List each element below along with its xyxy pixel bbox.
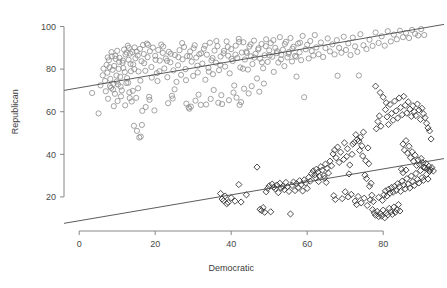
data-point-diamond [379,197,385,203]
data-point-circle [257,89,262,94]
data-point-circle [325,36,330,41]
data-point-circle [214,38,219,43]
data-point-circle [388,39,393,44]
data-point-circle [285,55,290,60]
data-point-circle [254,76,259,81]
y-tick-label: 20 [46,192,56,202]
data-point-diamond [400,141,406,147]
data-point-diamond [342,189,348,195]
data-point-circle [105,96,110,101]
data-point-circle [123,103,128,108]
data-point-circle [188,49,193,54]
data-point-diamond [406,143,412,149]
data-point-circle [249,84,254,89]
data-point-circle [231,90,236,95]
data-point-diamond [376,113,382,119]
data-point-circle [348,52,353,57]
data-point-circle [155,78,160,83]
data-point-circle [115,48,120,53]
data-point-circle [334,38,339,43]
data-point-circle [143,104,148,109]
data-point-circle [96,111,101,116]
data-point-circle [350,35,355,40]
data-point-circle [355,49,360,54]
data-point-circle [297,50,302,55]
data-point-circle [130,88,135,93]
data-point-circle [105,70,110,75]
data-point-circle [282,64,287,69]
data-point-circle [196,92,201,97]
data-point-circle [264,37,269,42]
data-point-circle [138,134,143,139]
data-point-circle [115,98,120,103]
data-point-circle [223,64,228,69]
data-point-diamond [403,138,409,144]
data-point-circle [113,53,118,58]
data-point-diamond [346,171,352,177]
data-point-diamond [360,129,366,135]
data-point-circle [145,42,150,47]
data-point-diamond [390,117,396,123]
data-point-circle [194,55,199,60]
data-point-circle [152,108,157,113]
data-point-circle [373,30,378,35]
data-point-diamond [341,140,347,146]
data-point-circle [111,104,116,109]
data-point-circle [166,101,171,106]
data-point-diamond [339,196,345,202]
data-point-diamond [401,147,407,153]
data-point-circle [165,75,170,80]
data-point-diamond [335,144,341,150]
data-point-circle [358,32,363,37]
data-point-circle [90,90,95,95]
data-point-circle [280,47,285,52]
data-point-circle [413,31,418,36]
data-point-circle [103,89,108,94]
data-point-circle [191,73,196,78]
data-point-circle [118,94,123,99]
data-point-circle [226,98,231,103]
data-point-circle [300,33,305,38]
data-point-diamond [268,209,274,215]
data-point-circle [382,43,387,48]
data-point-circle [134,128,139,133]
data-point-circle [175,63,180,68]
data-point-circle [297,40,302,45]
data-point-circle [150,45,155,50]
data-point-circle [199,51,204,56]
data-point-circle [312,32,317,37]
data-point-circle [174,79,179,84]
data-point-circle [177,48,182,53]
data-point-diamond [287,211,293,217]
data-point-diamond [385,121,391,127]
data-point-circle [422,32,427,37]
republican-upper-fit [64,24,444,90]
data-point-circle [192,43,197,48]
data-point-diamond [373,83,379,89]
data-point-diamond [344,146,350,152]
data-point-circle [204,52,209,57]
data-point-diamond [380,207,386,213]
data-point-diamond [338,149,344,155]
data-point-circle [145,55,150,60]
data-point-circle [218,54,223,59]
data-point-circle [147,97,152,102]
data-point-circle [352,44,357,49]
tick-labels: 20406080100020406080DemocraticRepublican [10,22,388,273]
data-point-circle [162,66,167,71]
x-tick-label: 60 [302,239,312,249]
data-point-circle [108,76,113,81]
data-point-circle [171,68,176,73]
y-tick-label: 80 [46,64,56,74]
x-tick-label: 80 [378,239,388,249]
data-point-circle [200,61,205,66]
x-tick-label: 20 [150,239,160,249]
data-point-circle [263,44,268,49]
data-point-circle [136,86,141,91]
data-point-circle [289,59,294,64]
data-point-circle [189,59,194,64]
x-tick-label: 0 [77,239,82,249]
data-point-circle [226,53,231,58]
data-point-circle [207,40,212,45]
data-point-circle [364,47,369,52]
